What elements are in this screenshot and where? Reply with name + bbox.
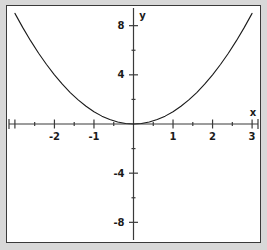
x-tick-label: -1 (88, 131, 99, 142)
x-tick-label: 1 (170, 131, 177, 142)
x-tick-label: 3 (249, 131, 256, 142)
y-tick-label: -4 (113, 168, 124, 179)
plot-area: -2-112384-4-8xy (6, 5, 261, 243)
y-tick-label: 4 (118, 69, 125, 80)
figure-container: -2-112384-4-8xy (0, 0, 267, 250)
parabola-chart: -2-112384-4-8xy (7, 6, 260, 242)
x-axis-label: x (250, 107, 257, 118)
x-tick-label: -2 (49, 131, 60, 142)
y-axis-label: y (139, 10, 146, 21)
x-tick-label: 2 (209, 131, 216, 142)
tick-label-layer: -2-112384-4-8xy (49, 10, 257, 228)
y-tick-label: -8 (113, 217, 124, 228)
y-tick-label: 8 (118, 20, 125, 31)
